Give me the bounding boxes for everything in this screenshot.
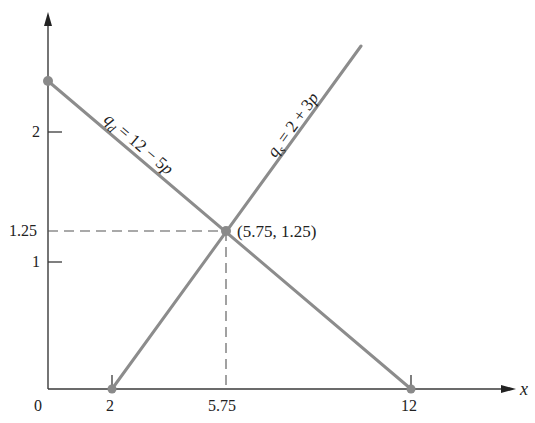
- x-tick-label-12: 12: [401, 398, 417, 414]
- x-axis-arrow-icon: [501, 385, 516, 393]
- x-tick-label-2: 2: [106, 398, 114, 414]
- y-tick-label-125: 1.25: [9, 223, 37, 239]
- demand-x-intercept-point: [407, 385, 416, 394]
- supply-intercept-point: [108, 385, 117, 394]
- x-tick-label-575: 5.75: [208, 398, 236, 414]
- y-tick-label-2: 2: [32, 124, 40, 140]
- y-tick-label-1: 1: [32, 254, 40, 270]
- origin-label: 0: [34, 398, 42, 414]
- supply-curve: [112, 46, 361, 389]
- supply-demand-chart: [0, 0, 535, 423]
- x-axis-label: x: [520, 380, 528, 398]
- y-axis-arrow-icon: [44, 12, 52, 26]
- equilibrium-point: [221, 226, 231, 236]
- equilibrium-label: (5.75, 1.25): [237, 223, 316, 240]
- demand-intercept-point: [43, 76, 53, 86]
